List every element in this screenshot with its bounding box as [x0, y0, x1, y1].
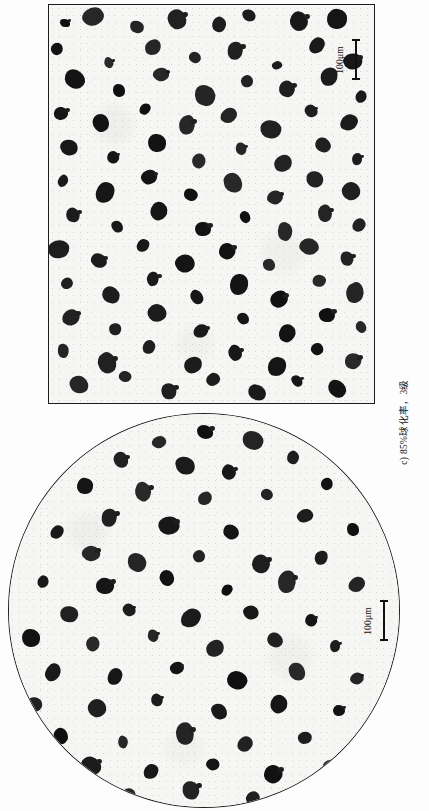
graphite-nodule [148, 134, 167, 153]
graphite-fleck [153, 172, 158, 176]
rectangular-micrograph-panel: 100μm [48, 4, 375, 404]
scale-bar-cap-top [352, 39, 360, 41]
graphite-fleck [291, 83, 296, 88]
scale-bar-cap-top [380, 600, 388, 602]
graphite-fleck [77, 210, 82, 214]
figure-caption-text: c) 85%球化率，3级 [396, 379, 410, 465]
scanned-page: 100μm 100μm c) 85%球化率，3级 [0, 0, 429, 811]
graphite-fleck [95, 548, 100, 553]
graphite-fleck [209, 426, 214, 431]
graphite-fleck [191, 119, 196, 124]
graphite-fleck [357, 355, 362, 360]
scale-bar-line [355, 39, 357, 80]
scale-bar-line [383, 600, 385, 641]
graphite-fleck [157, 274, 162, 278]
graphite-fleck [231, 245, 236, 250]
graphite-fleck [279, 192, 284, 196]
graphite-fleck [239, 348, 244, 352]
graphite-fleck [329, 208, 334, 212]
graphite-fleck [205, 326, 210, 330]
graphite-fleck [103, 256, 108, 260]
graphite-nodule [109, 323, 122, 335]
graphite-fleck [351, 254, 356, 258]
circular-micrograph-panel: 100μm [8, 413, 400, 808]
scale-bar-label: 100μm [335, 46, 345, 74]
graphite-fleck [173, 385, 178, 390]
scale-bar-circular: 100μm [383, 600, 385, 641]
graphite-fleck [233, 467, 238, 471]
graphite-fleck [207, 223, 212, 228]
figure-caption: c) 85%球化率，3级 [396, 378, 410, 466]
scale-bar-cap-bottom [380, 639, 388, 641]
scale-bar-rectangular: 100μm [355, 39, 357, 80]
graphite-fleck [357, 55, 362, 60]
graphite-fleck [165, 70, 170, 74]
scale-bar-cap-bottom [352, 78, 360, 80]
graphite-fleck [125, 455, 130, 459]
graphite-fleck [283, 293, 288, 298]
graphite-fleck [331, 309, 336, 314]
graphite-fleck [75, 311, 80, 316]
graphite-fleck [65, 108, 70, 112]
graphite-nodule [22, 629, 41, 648]
scale-bar-label: 100μm [363, 607, 373, 635]
